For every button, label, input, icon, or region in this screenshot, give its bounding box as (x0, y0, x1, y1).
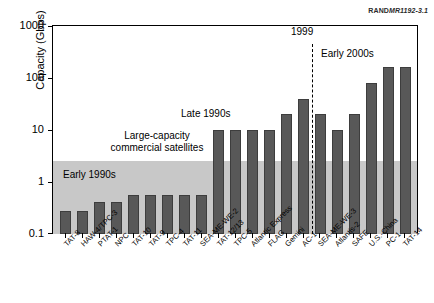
y-tick-label-1000: 1000 (20, 19, 44, 31)
x-tickmark (150, 233, 151, 238)
annotation-satellite-band: Large-capacity commercial satellites (77, 130, 237, 154)
bar-pc-1 (383, 67, 394, 234)
x-tickmark (133, 233, 134, 238)
bar-sea-me-we-3 (315, 114, 326, 234)
bar-ptat-1 (94, 202, 105, 234)
bar-tat-14 (400, 67, 411, 234)
bar-haw-4-tpc-3 (77, 211, 88, 234)
bar-tat-8 (60, 211, 71, 234)
x-tickmark (218, 233, 219, 238)
figure-id-prefix: RAND (368, 7, 389, 14)
x-tickmark (336, 233, 337, 238)
bar-gemini (281, 114, 292, 234)
annotation-satellite-line2: commercial satellites (77, 142, 237, 154)
x-tickmark (116, 233, 117, 238)
x-tickmark (99, 233, 100, 238)
x-tickmark (303, 233, 304, 238)
annotation-early-2000s: Early 2000s (321, 48, 374, 59)
x-tickmark (370, 233, 371, 238)
y-tick-label-10: 10 (32, 123, 44, 135)
x-tickmark (65, 233, 66, 238)
x-tickmark (404, 233, 405, 238)
bar-tpc-4 (162, 195, 173, 234)
bar-ac-1 (298, 99, 309, 234)
x-tickmark (269, 233, 270, 238)
y-tick-label-100: 100 (26, 71, 44, 83)
plot-area: Large-capacity commercial satellites Ear… (52, 25, 418, 233)
x-tickmark (387, 233, 388, 238)
bar-tat-10 (128, 195, 139, 234)
x-axis-ticks (52, 233, 418, 241)
bar-atlantic-express (247, 130, 258, 234)
y-axis: Capacity (Gbps) 1000 100 10 1 0.1 (0, 0, 52, 303)
bar-tat-9 (145, 195, 156, 234)
annotation-late-1990s: Late 1990s (181, 108, 231, 119)
bar-npc (111, 202, 122, 234)
x-tickmark (201, 233, 202, 238)
figure-id-number: MR1192-3.1 (389, 7, 428, 14)
annotation-1999: 1999 (291, 26, 313, 37)
reference-line-1999 (312, 44, 313, 234)
bar-tat-11 (179, 195, 190, 234)
x-tickmark (252, 233, 253, 238)
annotation-satellite-line1: Large-capacity (77, 130, 237, 142)
x-tickmark (184, 233, 185, 238)
x-tickmark (167, 233, 168, 238)
bar-flag (264, 130, 275, 234)
x-tickmark (82, 233, 83, 238)
bar-atlantis-2 (332, 130, 343, 234)
y-tick-label-1: 1 (38, 175, 44, 187)
x-tickmark (235, 233, 236, 238)
annotation-early-1990s: Early 1990s (63, 169, 116, 180)
bar-safe (349, 114, 360, 234)
x-tickmark (353, 233, 354, 238)
y-tick-label-0.1: 0.1 (29, 227, 44, 239)
bar-sea-me-we-2 (196, 195, 207, 234)
figure-id-label: RANDMR1192-3.1 (368, 7, 428, 14)
x-tickmark (286, 233, 287, 238)
x-tickmark (319, 233, 320, 238)
bar-u-s-china (366, 83, 377, 234)
